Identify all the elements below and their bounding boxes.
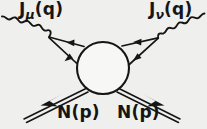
arrowhead-upper-right bbox=[133, 39, 141, 46]
label-nucleon-in-argument: (p) bbox=[71, 102, 99, 122]
label-nucleon-out: N(p) bbox=[117, 104, 160, 121]
fermion-line-upper-right bbox=[122, 38, 158, 46]
arrowhead-upper-left bbox=[67, 40, 75, 47]
label-current-nu-argument: (q) bbox=[164, 0, 192, 19]
label-current-nu: Jν(q) bbox=[149, 1, 192, 21]
label-nucleon-in-symbol: N bbox=[57, 102, 71, 122]
label-current-mu-subscript: μ bbox=[26, 7, 35, 22]
label-current-mu: Jμ(q) bbox=[19, 1, 63, 21]
label-current-nu-subscript: ν bbox=[156, 7, 165, 22]
label-nucleon-in: N(p) bbox=[57, 104, 100, 121]
label-nucleon-out-symbol: N bbox=[117, 102, 131, 122]
label-current-mu-argument: (q) bbox=[35, 0, 63, 19]
feynman-diagram-figure: Jμ(q) Jν(q) N(p) N(p) bbox=[0, 0, 207, 129]
label-nucleon-out-argument: (p) bbox=[131, 102, 159, 122]
hadronic-blob bbox=[77, 42, 129, 94]
